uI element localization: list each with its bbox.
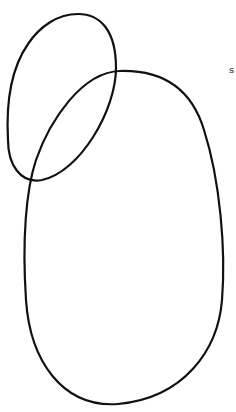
diagram-canvas (0, 0, 236, 412)
large-oval (24, 71, 223, 404)
small-oval (8, 14, 116, 181)
annotation-mark: s (229, 64, 234, 75)
